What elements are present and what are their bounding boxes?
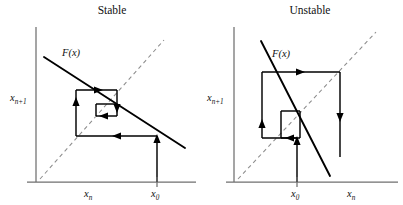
x-tick-label-xn-unstable: xn (346, 188, 356, 202)
arrow-right-unstable-1 (296, 68, 305, 75)
arrow-down-stable-1 (113, 104, 120, 113)
y-axis-label-unstable: xn+1 (206, 92, 224, 106)
arrow-up-stable-2 (72, 97, 79, 106)
panel-title-stable: Stable (98, 4, 127, 16)
arrow-left-unstable-1 (285, 134, 294, 141)
panel-unstable: Unstable F(x) xn+1 x0 (206, 4, 398, 202)
identity-line-unstable (238, 32, 376, 179)
x-tick-label-x0-unstable: x0 (290, 188, 300, 202)
x-tick-label-xn-stable: xn (83, 188, 93, 202)
y-axis-label-stable: xn+1 (9, 92, 27, 106)
function-label-stable: F(x) (61, 47, 81, 59)
function-label-unstable: F(x) (271, 48, 291, 60)
cobweb-path-unstable (262, 72, 340, 182)
panel-title-unstable: Unstable (290, 4, 331, 16)
arrow-up-unstable-2 (258, 119, 265, 128)
arrow-left-stable-1 (112, 132, 121, 139)
panel-stable: Stable F(x) xn+1 xn (9, 4, 196, 202)
cobweb-figure: Stable F(x) xn+1 xn (0, 0, 403, 205)
identity-line-stable (40, 40, 164, 179)
map-curve-stable (44, 57, 185, 148)
x-tick-label-x0-stable: x0 (150, 188, 160, 202)
map-curve-unstable (261, 41, 330, 176)
arrow-left-stable-2 (99, 112, 108, 119)
arrow-down-unstable-1 (336, 113, 343, 122)
